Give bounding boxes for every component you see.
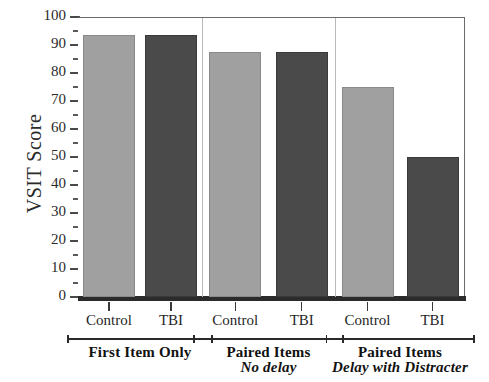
y-tick-label: 90 <box>30 35 66 52</box>
bar-control <box>209 52 261 297</box>
y-tick-label: 70 <box>30 91 66 108</box>
y-tick-label: 60 <box>30 119 66 136</box>
group-label-sub: No delay <box>193 359 344 376</box>
category-tick <box>301 302 302 311</box>
group-bracket <box>67 338 213 340</box>
group-label-main: First Item Only <box>67 344 213 361</box>
category-tick <box>108 302 109 311</box>
group-bracket <box>326 338 475 340</box>
group-label: Paired ItemsNo delay <box>193 344 344 376</box>
y-tick-label: 0 <box>30 287 66 304</box>
y-tick-label: 50 <box>30 147 66 164</box>
group-label: Paired ItemsDelay with Distracter <box>326 344 475 376</box>
category-tick <box>432 302 433 311</box>
y-tick-label: 20 <box>30 231 66 248</box>
y-tick-label: 40 <box>30 175 66 192</box>
group-label: First Item Only <box>67 344 213 361</box>
y-tick-label: 80 <box>30 63 66 80</box>
group-label-sub: Delay with Distracter <box>326 359 475 376</box>
bar-control <box>83 35 135 297</box>
bar-tbi <box>276 52 328 297</box>
category-tick <box>170 302 171 311</box>
panel-separator <box>202 18 203 297</box>
category-label: TBI <box>393 312 473 329</box>
group-bracket <box>193 338 344 340</box>
panel-separator <box>335 18 336 297</box>
category-tick <box>367 302 368 311</box>
chart-figure: VSIT Score 0102030405060708090100 Contro… <box>0 0 489 382</box>
y-tick-label: 10 <box>30 259 66 276</box>
category-tick <box>235 302 236 311</box>
y-tick-label: 30 <box>30 203 66 220</box>
bar-tbi <box>145 35 197 297</box>
bar-control <box>342 87 394 297</box>
y-tick-label: 100 <box>30 7 66 24</box>
bar-tbi <box>407 157 459 297</box>
